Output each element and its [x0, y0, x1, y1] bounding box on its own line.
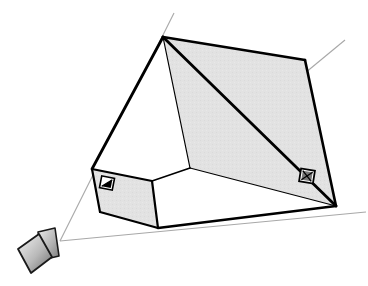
camera-icon[interactable] [18, 228, 59, 273]
diagram-canvas [0, 0, 368, 286]
near-plane-marker[interactable] [99, 176, 114, 190]
far-plane-marker[interactable] [299, 168, 315, 183]
frustum-svg [0, 0, 368, 286]
